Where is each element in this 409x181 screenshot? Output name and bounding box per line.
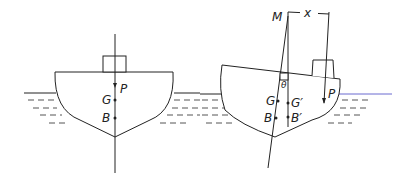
left-label-b: B (102, 111, 110, 125)
right-label-p: P (328, 87, 336, 101)
left-b-point (114, 117, 117, 120)
left-g-point (114, 99, 117, 102)
right-b-prime-point (287, 116, 290, 119)
left-hull (55, 72, 173, 137)
left-label-g: G (102, 93, 111, 107)
label-m: M (272, 10, 283, 24)
theta-marker (280, 73, 288, 80)
right-label-g-prime: G′ (291, 96, 303, 110)
right-g-point (277, 100, 280, 103)
right-label-g: G (266, 94, 275, 108)
left-label-p: P (120, 82, 128, 96)
right-deckhouse (312, 60, 334, 78)
label-x: x (303, 6, 312, 20)
ship-stability-diagram: P G B x M θ (0, 0, 409, 181)
right-label-b-prime: B′ (291, 111, 302, 125)
left-ship (24, 34, 200, 173)
right-b-point (275, 117, 278, 120)
right-g-prime-point (287, 102, 290, 105)
right-ship (200, 12, 392, 168)
label-theta: θ (281, 80, 287, 90)
right-label-b: B (264, 111, 272, 125)
